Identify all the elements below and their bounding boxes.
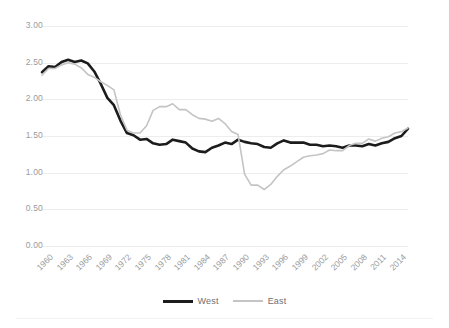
gridline (42, 246, 408, 247)
legend-label-east: East (268, 296, 287, 306)
plot-area (42, 26, 408, 246)
legend-item-east[interactable]: East (233, 296, 287, 306)
series-line-east (42, 63, 408, 190)
y-axis-tick-label: 1.00 (7, 167, 43, 177)
y-axis-tick-label: 2.50 (7, 57, 43, 67)
chart-legend: West East (0, 296, 449, 306)
legend-label-west: West (198, 296, 219, 306)
series-layer (42, 26, 408, 246)
series-line-west (42, 60, 408, 152)
legend-swatch-west-icon (163, 300, 193, 303)
y-axis-tick-label: 1.50 (7, 130, 43, 140)
legend-swatch-east-icon (233, 300, 263, 302)
legend-item-west[interactable]: West (163, 296, 219, 306)
y-axis-tick-label: 0.00 (7, 240, 43, 250)
y-axis-tick-label: 2.00 (7, 93, 43, 103)
fertility-rate-line-chart: 3.002.502.001.501.000.500.00 19601963196… (0, 0, 449, 328)
y-axis-tick-label: 3.00 (7, 20, 43, 30)
y-axis-tick-label: 0.50 (7, 203, 43, 213)
bottom-divider (16, 318, 433, 319)
